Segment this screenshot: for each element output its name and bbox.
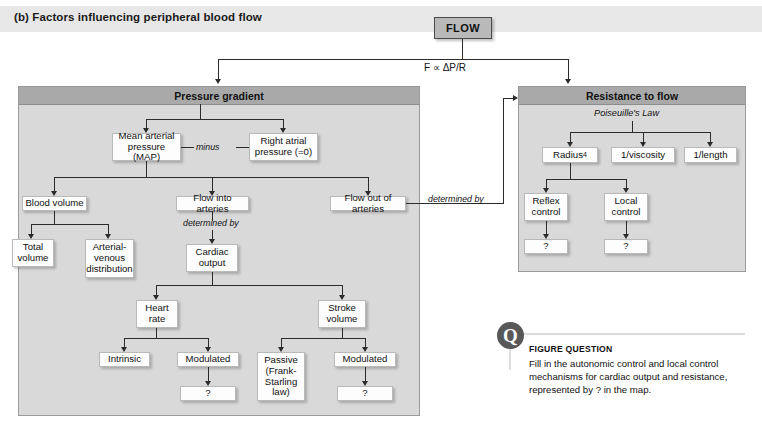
arrow-flow-to-resistance: [565, 79, 571, 84]
connector-local-to-q: [626, 221, 627, 234]
connector-hr-to-modulated: [208, 338, 209, 347]
connector-radius-bus: [546, 179, 626, 180]
edge-label-minus: minus: [196, 142, 219, 152]
node-question-reflex: ?: [524, 239, 568, 254]
connector-minus-right: [236, 147, 249, 148]
connector-modsv-to-q: [365, 367, 366, 381]
connector-law-to-viscosity: [643, 132, 644, 142]
connector-flow-stem: [462, 39, 463, 59]
edge-label-determined-by-resistance: determined by: [428, 194, 484, 204]
figure-caption: (b) Factors influencing peripheral blood…: [14, 11, 262, 23]
node-radius-label: Radius: [553, 150, 583, 161]
connector-co-stem: [212, 272, 213, 285]
connector-flow-to-pressure: [218, 59, 219, 79]
connector-sv-to-passive: [281, 338, 282, 347]
node-length: 1/length: [684, 147, 737, 163]
connector-fia-stem-lower: [212, 230, 213, 239]
figure-question-rule: [523, 333, 745, 335]
node-reflex-control: Reflex control: [524, 193, 568, 221]
connector-co-to-hr: [156, 285, 157, 295]
node-radius: Radius4: [542, 147, 598, 163]
connector-bus-to-flowinto: [212, 177, 213, 191]
connector-flowout-up: [503, 98, 504, 203]
connector-reflex-to-q: [546, 221, 547, 234]
connector-minus-left: [181, 147, 194, 148]
connector-co-to-sv: [342, 285, 343, 295]
node-question-local: ?: [604, 239, 648, 254]
connector-radius-to-local: [626, 179, 627, 188]
connector-flowout-into-resistance: [503, 98, 513, 99]
connector-sv-to-modulated: [365, 338, 366, 347]
figure-question-title: FIGURE QUESTION: [529, 344, 613, 354]
node-question-heart-rate: ?: [180, 386, 236, 401]
question-mark-icon: Q: [497, 322, 524, 349]
arrow-flow-to-pressure: [215, 79, 221, 84]
node-blood-volume: Blood volume: [22, 196, 87, 211]
connector-law-to-length: [710, 132, 711, 142]
connector-hr-to-intrinsic: [124, 338, 125, 347]
connector-bv-bus: [31, 224, 108, 225]
connector-flow-bus: [218, 59, 568, 60]
node-viscosity: 1/viscosity: [611, 147, 675, 163]
connector-pg-bus: [146, 119, 283, 120]
panel-pressure-title: Pressure gradient: [19, 87, 419, 105]
connector-radius-stem: [570, 163, 571, 179]
node-passive-frank-starling: Passive (Frank-Starling law): [257, 352, 305, 401]
connector-pg-stem: [200, 104, 201, 119]
node-heart-rate: Heart rate: [136, 300, 178, 328]
connector-pg-to-ra: [283, 119, 284, 128]
poiseuilles-law-label: Poiseuille's Law: [594, 108, 659, 118]
connector-bv-to-avdist: [108, 224, 109, 234]
node-flow-into-arteries: Flow into arteries: [176, 196, 249, 211]
connector-bus-to-bloodvolume: [54, 177, 55, 191]
connector-hr-stem: [156, 328, 157, 338]
panel-resistance-title: Resistance to flow: [519, 87, 745, 105]
connector-bv-to-total: [31, 224, 32, 234]
node-flow-out-arteries: Flow out of arteries: [330, 196, 406, 211]
node-mean-arterial-pressure: Mean arterial pressure (MAP): [112, 133, 181, 161]
connector-law-stem: [632, 121, 633, 132]
connector-modhr-to-q: [208, 367, 209, 381]
edge-label-determined-by-cardiac: determined by: [183, 218, 239, 228]
node-local-control: Local control: [604, 193, 648, 221]
node-modulated-stroke-volume: Modulated: [334, 352, 396, 367]
node-intrinsic: Intrinsic: [99, 352, 150, 367]
node-stroke-volume: Stroke volume: [318, 300, 366, 328]
connector-radius-to-reflex: [546, 179, 547, 188]
figure-question-block: Q FIGURE QUESTION Fill in the autonomic …: [497, 322, 747, 418]
connector-map-stem: [146, 161, 147, 177]
connector-law-to-radius: [570, 132, 571, 142]
flow-equation: F ∝ ΔP/R: [424, 62, 466, 73]
connector-bv-stem: [54, 211, 55, 224]
node-modulated-heart-rate: Modulated: [177, 352, 239, 367]
diagram-canvas: (b) Factors influencing peripheral blood…: [0, 0, 762, 427]
connector-hr-bus: [124, 338, 208, 339]
figure-question-rule-vertical: [509, 348, 511, 370]
node-total-volume: Total volume: [12, 239, 54, 267]
node-cardiac-output: Cardiac output: [186, 244, 238, 272]
node-arterial-venous-distribution: Arterial-venous distribution: [85, 239, 134, 278]
connector-pg-to-map: [146, 119, 147, 128]
node-flow: FLOW: [434, 17, 492, 39]
connector-co-bus: [156, 285, 342, 286]
figure-question-body: Fill in the autonomic control and local …: [529, 358, 735, 396]
connector-flow-to-resistance: [568, 59, 569, 79]
node-question-stroke-volume: ?: [337, 386, 393, 401]
connector-law-bus: [570, 132, 710, 133]
connector-sv-bus: [281, 338, 365, 339]
connector-map-bus: [54, 177, 368, 178]
connector-bus-to-flowout: [368, 177, 369, 191]
connector-sv-stem: [342, 328, 343, 338]
node-right-atrial-pressure: Right atrial pressure (=0): [249, 133, 318, 161]
